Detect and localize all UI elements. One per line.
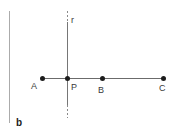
line-r-label: r	[71, 16, 74, 25]
geometry-figure-panel: b r A P B C	[0, 0, 180, 134]
panel-left-border	[9, 11, 10, 123]
point-A-label: A	[31, 82, 37, 91]
point-C-dot	[161, 76, 166, 81]
point-P-dot	[65, 76, 70, 81]
point-B-label: B	[98, 86, 104, 95]
point-P-label: P	[71, 83, 77, 92]
line-r-dotted-top	[67, 11, 68, 22]
point-B-dot	[100, 76, 105, 81]
line-r-dotted-bottom	[67, 105, 68, 118]
panel-caption-label: b	[16, 118, 22, 128]
point-A-dot	[40, 76, 45, 81]
point-C-label: C	[159, 84, 166, 93]
line-r-solid	[67, 22, 68, 105]
